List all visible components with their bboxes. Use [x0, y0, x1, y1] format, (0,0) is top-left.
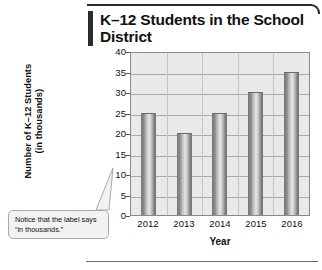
x-axis-tick-labels: 20122013201420152016: [130, 218, 310, 229]
plot-area: [130, 52, 310, 216]
y-axis-title-line-1: Number of K–12 Students: [22, 46, 33, 196]
x-axis-tick-2014: 2014: [202, 218, 238, 229]
callout-pointer-icon: [92, 168, 114, 212]
y-axis-tick-mark: [126, 52, 130, 53]
chart-title-line-1: K–12 Students in the School: [100, 11, 304, 28]
bar-slot-2014: [202, 53, 238, 215]
y-axis-title: Number of K–12 Students (in thousands): [22, 46, 44, 196]
page-title: K–12 Students in the School District: [100, 11, 304, 46]
y-axis-tick-15: 15: [115, 150, 126, 160]
bar-2016[interactable]: [284, 72, 299, 216]
y-axis-tick-10: 10: [115, 170, 126, 180]
y-axis-tick-20: 20: [115, 129, 126, 139]
bar-2012[interactable]: [141, 113, 156, 216]
x-axis-tick-2013: 2013: [166, 218, 202, 229]
title-accent-bar: [88, 11, 93, 46]
bar-slot-2015: [238, 53, 274, 215]
x-axis-tick-2015: 2015: [238, 218, 274, 229]
y-axis-tick-mark: [126, 155, 130, 156]
y-axis-tick-mark: [126, 134, 130, 135]
y-axis-tick-25: 25: [115, 109, 126, 119]
y-axis-title-line-2: (in thousands): [33, 46, 44, 196]
y-axis-tick-mark: [126, 175, 130, 176]
bar-2013[interactable]: [177, 133, 192, 215]
y-axis-tick-35: 35: [115, 68, 126, 78]
y-axis-tick-mark: [126, 196, 130, 197]
bar-2015[interactable]: [248, 92, 263, 215]
x-axis-tick-2012: 2012: [130, 218, 166, 229]
bar-slot-2016: [273, 53, 309, 215]
x-axis-tick-2016: 2016: [274, 218, 310, 229]
x-axis-title: Year: [130, 236, 310, 247]
y-axis-tick-40: 40: [115, 47, 126, 57]
bar-series: [131, 53, 309, 215]
y-axis-tick-30: 30: [115, 88, 126, 98]
y-axis-tick-mark: [126, 73, 130, 74]
y-axis-tick-mark: [126, 93, 130, 94]
y-axis-tick-mark: [126, 216, 130, 217]
y-axis-tick-mark: [126, 114, 130, 115]
bar-2014[interactable]: [212, 113, 227, 216]
bar-slot-2012: [131, 53, 167, 215]
chart-title-block: K–12 Students in the School District: [88, 11, 312, 46]
bar-slot-2013: [167, 53, 203, 215]
in-thousands-callout: Notice that the label says “in thousands…: [8, 210, 109, 239]
chart-title-line-2: District: [100, 28, 304, 45]
footer-rule: [86, 261, 318, 262]
